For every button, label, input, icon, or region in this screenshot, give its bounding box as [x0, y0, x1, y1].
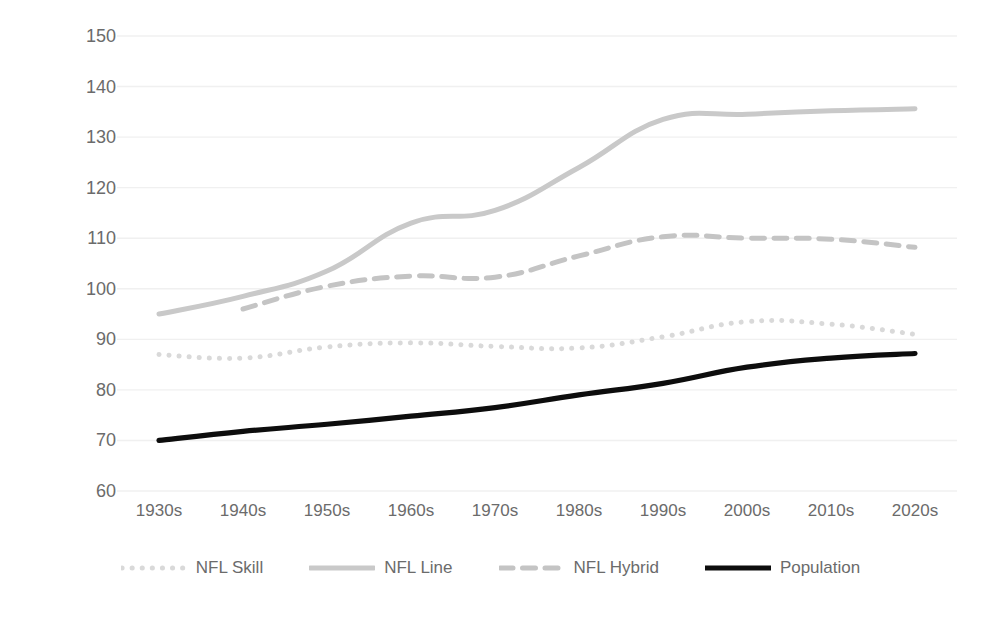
y-axis-tick-label: 110 — [62, 229, 116, 247]
plot-area — [0, 0, 981, 621]
y-axis-tick-label: 150 — [62, 27, 116, 45]
x-axis-tick-label: 1960s — [388, 501, 434, 521]
y-axis-tick-label: 90 — [62, 330, 116, 348]
y-axis-tick-label: 100 — [62, 280, 116, 298]
x-axis-tick-label: 1950s — [304, 501, 350, 521]
y-axis-tick-label: 140 — [62, 78, 116, 96]
x-axis-tick-label: 1930s — [136, 501, 182, 521]
legend-swatch — [499, 563, 565, 573]
legend-label: NFL Hybrid — [574, 558, 659, 578]
x-axis-tick-label: 1980s — [556, 501, 602, 521]
gridlines — [117, 36, 957, 491]
line-chart: Average Player Weight (kg) 6070809010011… — [0, 0, 981, 621]
legend-item[interactable]: NFL Line — [309, 558, 452, 578]
legend-item[interactable]: NFL Hybrid — [499, 558, 659, 578]
legend-swatch — [705, 563, 771, 573]
legend-swatch — [121, 563, 187, 573]
y-axis-tick-label: 80 — [62, 381, 116, 399]
x-axis-tick-label: 2020s — [892, 501, 938, 521]
series-layer — [159, 109, 915, 441]
x-axis-tick-label: 1970s — [472, 501, 518, 521]
legend-item[interactable]: NFL Skill — [121, 558, 263, 578]
y-axis-tick-label: 130 — [62, 128, 116, 146]
x-axis-tick-label: 1990s — [640, 501, 686, 521]
series-line — [159, 353, 915, 440]
series-line — [159, 109, 915, 314]
legend-label: Population — [780, 558, 860, 578]
y-axis-tick-label: 120 — [62, 179, 116, 197]
legend-swatch — [309, 563, 375, 573]
series-line — [243, 235, 915, 309]
y-axis-tick-labels: 60708090100110120130140150 — [62, 0, 116, 621]
legend-label: NFL Skill — [196, 558, 263, 578]
legend-item[interactable]: Population — [705, 558, 860, 578]
x-axis-tick-label: 2010s — [808, 501, 854, 521]
x-axis-tick-label: 2000s — [724, 501, 770, 521]
y-axis-tick-label: 60 — [62, 482, 116, 500]
legend: NFL SkillNFL LineNFL HybridPopulation — [0, 548, 981, 588]
x-axis-tick-label: 1940s — [220, 501, 266, 521]
y-axis-tick-label: 70 — [62, 431, 116, 449]
legend-label: NFL Line — [384, 558, 452, 578]
